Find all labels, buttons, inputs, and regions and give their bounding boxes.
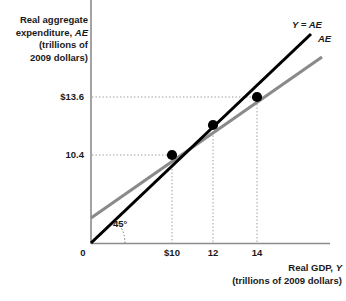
x-tick-label-12: 12: [199, 247, 227, 258]
x-axis-title-symbol-y: Y: [336, 262, 342, 273]
series-label-ae: AE: [318, 33, 331, 44]
y-axis-title: Real aggregateexpenditure, AE(trillions …: [4, 14, 88, 64]
y-axis-title-line3: (trillions of: [39, 39, 88, 50]
x-axis-title: Real GDP, Y(trillions of 2009 dollars): [196, 262, 342, 287]
x-axis-title-text: Real GDP,: [288, 262, 335, 273]
data-point-10: [167, 150, 177, 160]
x-tick-label-14: 14: [243, 247, 271, 258]
x-tick-label-10: $10: [154, 247, 190, 258]
series-line-y-equals-ae: [91, 34, 311, 243]
y-tick-label-13-6: $13.6: [30, 91, 84, 102]
angle-annotation-45-degrees: 45°: [113, 218, 127, 229]
y-axis-title-line1: Real aggregate: [20, 14, 88, 25]
y-tick-label-10-4: 10.4: [30, 149, 84, 160]
y-axis-title-line4: 2009 dollars): [30, 52, 88, 63]
data-point-12: [208, 120, 218, 130]
x-tick-label-origin: 0: [76, 247, 90, 258]
x-axis-title-line2: (trillions of 2009 dollars): [232, 275, 342, 286]
series-line-ae: [91, 57, 322, 218]
y-axis-title-line2-text: expenditure,: [16, 27, 75, 38]
series-label-y-equals-ae: Y = AE: [292, 19, 322, 30]
data-point-14: [252, 92, 262, 102]
y-axis-title-symbol-ae: AE: [75, 27, 88, 38]
aggregate-expenditure-chart: Real aggregateexpenditure, AE(trillions …: [0, 0, 346, 301]
